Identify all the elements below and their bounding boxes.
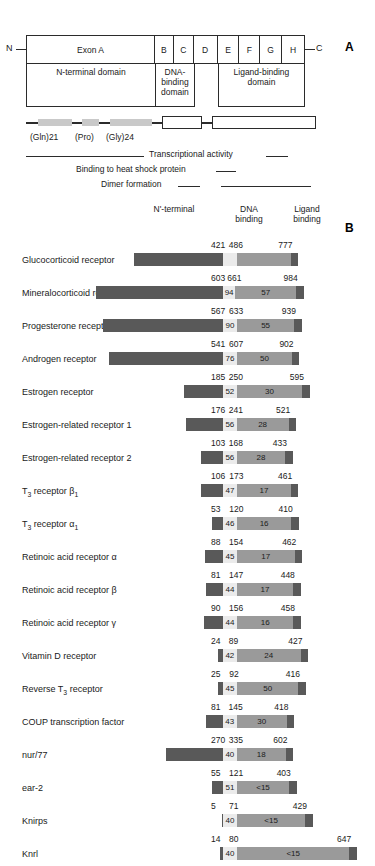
receptor-domain-bar: 4224 bbox=[218, 649, 308, 662]
segment-dna-binding-domain: 44 bbox=[223, 583, 237, 596]
coordinate-c-terminus: 433 bbox=[273, 438, 287, 448]
column-header-nterminal: N'-terminal bbox=[138, 204, 210, 214]
receptor-row: Progesterone receptor9055567633939 bbox=[0, 302, 375, 338]
receptor-domain-bar: 9457 bbox=[96, 286, 304, 299]
repeat-label-gly24: (Gly)24 bbox=[106, 132, 134, 142]
segment-c-terminal-cap bbox=[286, 748, 293, 761]
c-terminus-label: C bbox=[316, 43, 323, 53]
segment-c-terminal-cap bbox=[291, 484, 298, 497]
coordinate-c-terminus: 602 bbox=[273, 735, 287, 745]
receptor-domain-bar: 4517 bbox=[205, 550, 303, 563]
segment-dna-binding-domain: 56 bbox=[223, 418, 237, 431]
exon-cell-b: B bbox=[155, 36, 174, 63]
segment-ligand-binding-domain: 16 bbox=[237, 517, 291, 530]
segment-ligand-binding-domain: 50 bbox=[237, 352, 292, 365]
segment-n-terminal-domain bbox=[134, 253, 223, 266]
panel-a-label: A bbox=[345, 40, 354, 54]
segment-ligand-binding-domain: 17 bbox=[237, 550, 295, 563]
coordinate-dbd-start: 81 bbox=[211, 702, 220, 712]
coordinate-lbd-start: 335 bbox=[229, 735, 243, 745]
receptor-domain-bar: 51<15 bbox=[212, 781, 297, 794]
segment-c-terminal-cap bbox=[289, 781, 296, 794]
receptor-name-label: T3 receptor β1 bbox=[22, 486, 78, 498]
segment-c-terminal-cap bbox=[293, 583, 300, 596]
segment-c-terminal-cap bbox=[289, 418, 296, 431]
segment-c-terminal-cap bbox=[294, 319, 301, 332]
receptor-name-label: Retinoic acid receptor α bbox=[22, 552, 117, 562]
function-line-right bbox=[221, 186, 311, 187]
receptor-domain-bar: 4416 bbox=[204, 616, 301, 629]
receptor-row: ear-251<1555121403 bbox=[0, 764, 375, 800]
segment-ligand-binding-domain: 55 bbox=[237, 319, 294, 332]
coordinate-c-terminus: 777 bbox=[278, 240, 292, 250]
function-annotation-transcriptional-activity: Transcriptional activity bbox=[26, 150, 336, 162]
coordinate-c-terminus: 416 bbox=[286, 669, 300, 679]
receptor-domain-bar bbox=[134, 253, 298, 266]
segment-dna-binding-domain: 45 bbox=[223, 682, 237, 695]
gly-repeat-block bbox=[110, 119, 152, 126]
receptor-name-label: Knirps bbox=[22, 816, 48, 826]
receptor-row: Retinoic acid receptor β441781147448 bbox=[0, 566, 375, 602]
coordinate-dbd-start: 14 bbox=[211, 834, 220, 844]
receptor-row: Reverse T3 receptor45502592416 bbox=[0, 665, 375, 701]
receptor-row: Glucocorticoid receptor421486777 bbox=[0, 236, 375, 272]
coordinate-lbd-start: 92 bbox=[229, 669, 238, 679]
coordinate-lbd-start: 607 bbox=[229, 339, 243, 349]
function-line-mid bbox=[178, 186, 200, 187]
segment-c-terminal-cap bbox=[296, 286, 303, 299]
coordinate-dbd-start: 270 bbox=[211, 735, 225, 745]
dna-binding-zinc-finger-box bbox=[162, 116, 202, 129]
segment-ligand-binding-domain: 57 bbox=[235, 286, 296, 299]
receptor-row: T3 receptor β14717106173461 bbox=[0, 467, 375, 503]
segment-c-terminal-cap bbox=[287, 715, 294, 728]
function-label: Transcriptional activity bbox=[149, 149, 233, 159]
receptor-name-label: Estrogen-related receptor 2 bbox=[22, 453, 132, 463]
segment-ligand-binding-domain: 28 bbox=[237, 418, 289, 431]
segment-c-terminal-cap bbox=[293, 616, 300, 629]
segment-ligand-binding-domain: <15 bbox=[237, 814, 305, 827]
coordinate-dbd-start: 25 bbox=[211, 669, 220, 679]
segment-ligand-binding-domain: 50 bbox=[237, 682, 298, 695]
receptor-row: Estrogen receptor5230185250595 bbox=[0, 368, 375, 404]
function-line-right bbox=[266, 156, 288, 157]
coordinate-dbd-start: 567 bbox=[211, 306, 225, 316]
repeat-label-gln21: (Gln)21 bbox=[30, 132, 58, 142]
coordinate-dbd-start: 5 bbox=[211, 801, 216, 811]
segment-ligand-binding-domain bbox=[237, 253, 291, 266]
coordinate-c-terminus: 521 bbox=[276, 405, 290, 415]
receptor-name-label: Androgen receptor bbox=[22, 354, 97, 364]
receptor-domain-bar: 4550 bbox=[218, 682, 306, 695]
ligand-binding-box bbox=[212, 116, 316, 129]
coordinate-dbd-start: 603 bbox=[211, 273, 225, 283]
coordinate-dbd-start: 53 bbox=[211, 504, 220, 514]
segment-n-terminal-domain bbox=[166, 748, 223, 761]
segment-n-terminal-domain bbox=[201, 451, 223, 464]
coordinate-lbd-start: 633 bbox=[229, 306, 243, 316]
receptor-name-label: Retinoic acid receptor β bbox=[22, 585, 117, 595]
segment-n-terminal-domain bbox=[103, 319, 223, 332]
exon-cell-c: C bbox=[174, 36, 194, 63]
segment-c-terminal-cap bbox=[301, 649, 308, 662]
segment-c-terminal-cap bbox=[291, 253, 298, 266]
function-line-right bbox=[216, 171, 236, 172]
coordinate-lbd-start: 250 bbox=[229, 372, 243, 382]
column-header-dna-binding: DNAbinding bbox=[218, 204, 280, 224]
segment-n-terminal-domain bbox=[206, 715, 223, 728]
segment-c-terminal-cap bbox=[295, 550, 302, 563]
protein-backbone-schematic bbox=[26, 116, 316, 130]
segment-c-terminal-cap bbox=[291, 517, 298, 530]
coordinate-lbd-start: 154 bbox=[229, 537, 243, 547]
segment-ligand-binding-domain: 24 bbox=[237, 649, 301, 662]
receptor-name-label: Vitamin D receptor bbox=[22, 651, 96, 661]
receptor-row: Retinoic acid receptor α451788154462 bbox=[0, 533, 375, 569]
segment-n-terminal-domain bbox=[186, 418, 223, 431]
segment-c-terminal-cap bbox=[285, 451, 292, 464]
coordinate-dbd-start: 24 bbox=[211, 636, 220, 646]
coordinate-c-terminus: 448 bbox=[281, 570, 295, 580]
receptor-row: Estrogen-related receptor 15628176241521 bbox=[0, 401, 375, 437]
segment-dna-binding-domain: 46 bbox=[223, 517, 237, 530]
receptor-domain-bar: 4417 bbox=[206, 583, 301, 596]
coordinate-c-terminus: 984 bbox=[284, 273, 298, 283]
receptor-name-label: Estrogen-related receptor 1 bbox=[22, 420, 132, 430]
receptor-domain-bar: 4717 bbox=[201, 484, 298, 497]
